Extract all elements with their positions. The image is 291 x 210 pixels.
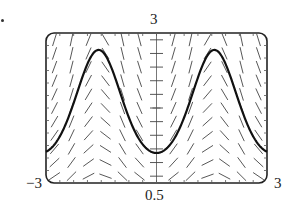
y-max-label: 3 [150, 12, 158, 27]
x-min-label: −3 [26, 176, 42, 191]
y-min-label: 0.5 [145, 188, 164, 203]
slope-field-chart [0, 0, 291, 210]
x-max-label: 3 [274, 176, 282, 191]
